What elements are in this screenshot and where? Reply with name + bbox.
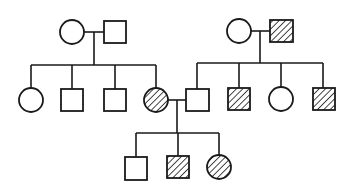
individual-II-1-female-unaffected	[19, 88, 43, 112]
individual-II-3-male-unaffected	[104, 89, 126, 111]
individual-II-7-female-unaffected	[269, 87, 293, 111]
mating-line-I-1-I-2	[31, 32, 156, 89]
individual-III-2-male-affected	[167, 156, 189, 178]
individual-I-1-female-unaffected	[60, 20, 84, 44]
pedigree-chart	[0, 0, 355, 193]
individual-III-3-female-affected	[207, 155, 231, 179]
individual-II-2-male-unaffected	[61, 89, 83, 111]
individual-I-4-male-affected	[270, 20, 293, 42]
individual-III-1-male-unaffected	[125, 157, 147, 180]
individual-II-8-male-affected	[313, 88, 335, 110]
mating-line-I-3-I-4	[197, 31, 323, 89]
individual-II-4-female-affected	[144, 88, 168, 112]
individual-II-5-male-unaffected	[186, 89, 209, 111]
individual-I-2-male-unaffected	[104, 21, 126, 43]
individual-II-6-male-affected	[228, 88, 250, 110]
individual-I-3-female-unaffected	[227, 19, 251, 43]
